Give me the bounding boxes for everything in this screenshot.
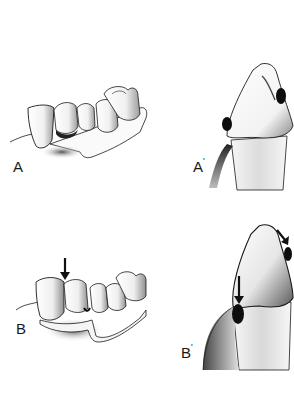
panel-letter: A [193, 158, 203, 175]
panel-letter: B [181, 344, 191, 361]
prime-mark: ' [191, 342, 193, 352]
partial-denture-illustration-a [0, 60, 147, 200]
abutment-section-illustration-a-prime [147, 40, 294, 210]
panel-letter: B [16, 320, 26, 337]
panel-b-prime: B' [147, 210, 294, 404]
abutment-section-illustration-b-prime [147, 210, 294, 404]
panel-label-b-prime: B' [181, 344, 193, 361]
prime-mark: ' [203, 156, 205, 166]
panel-a: A [0, 60, 147, 200]
panel-a-prime: A' [147, 40, 294, 210]
panel-letter: A [13, 158, 23, 175]
panel-b: B [0, 250, 147, 404]
panel-label-b: B [16, 320, 26, 337]
panel-label-a-prime: A' [193, 158, 205, 175]
panel-label-a: A [13, 158, 23, 175]
